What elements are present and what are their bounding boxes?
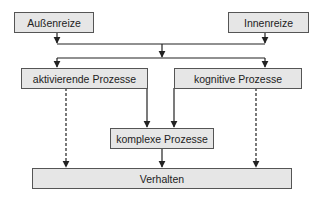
node-verhalten: Verhalten <box>32 168 292 189</box>
node-innenreize: Innenreize <box>228 12 309 33</box>
node-label: Innenreize <box>244 17 293 29</box>
node-label: Außenreize <box>27 17 81 29</box>
node-komplexe-prozesse: komplexe Prozesse <box>110 128 214 149</box>
node-label: komplexe Prozesse <box>116 133 208 145</box>
node-kognitive-prozesse: kognitive Prozesse <box>174 68 302 89</box>
node-label: Verhalten <box>140 173 184 185</box>
node-aktivierende-prozesse: aktivierende Prozesse <box>21 68 148 89</box>
node-aussenreize: Außenreize <box>14 12 94 33</box>
node-label: kognitive Prozesse <box>194 73 282 85</box>
flow-diagram: Außenreize Innenreize aktivierende Proze… <box>0 0 324 199</box>
node-label: aktivierende Prozesse <box>33 73 136 85</box>
